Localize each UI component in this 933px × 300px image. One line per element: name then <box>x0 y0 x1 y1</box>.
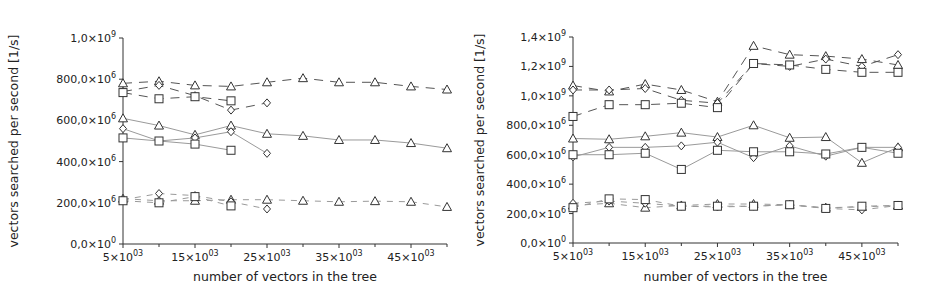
axes: 0,0×100200,0×106400,0×106600,0×106800,0×… <box>56 30 447 264</box>
square-marker-icon <box>858 202 866 210</box>
triangle-marker-icon <box>749 41 758 49</box>
square-marker-icon <box>713 104 721 112</box>
square-marker-icon <box>894 149 902 157</box>
series-solid-triangle-mid <box>119 114 452 152</box>
y-tick-label: 1,0×109 <box>520 88 566 103</box>
triangle-marker-icon <box>407 82 416 90</box>
square-marker-icon <box>191 193 199 201</box>
square-marker-icon <box>641 196 649 204</box>
diamond-marker-icon <box>264 205 271 213</box>
diamond-marker-icon <box>264 149 271 157</box>
triangle-marker-icon <box>443 202 452 210</box>
square-marker-icon <box>191 93 199 101</box>
square-marker-icon <box>786 201 794 209</box>
diamond-marker-icon <box>228 106 235 114</box>
y-tick-label: 0,0×100 <box>520 235 566 250</box>
triangle-marker-icon <box>299 74 308 82</box>
y-tick-label: 600,0×106 <box>506 147 566 162</box>
x-tick-label: 25×1003 <box>694 248 741 263</box>
square-marker-icon <box>822 65 830 73</box>
series-line <box>573 125 898 163</box>
y-tick-label: 400,0×106 <box>56 154 116 169</box>
triangle-marker-icon <box>371 78 380 86</box>
square-marker-icon <box>750 202 758 210</box>
square-marker-icon <box>641 101 649 109</box>
triangle-marker-icon <box>857 158 866 166</box>
x-tick-label: 15×1003 <box>622 248 669 263</box>
series-line <box>123 78 447 89</box>
triangle-marker-icon <box>371 197 380 205</box>
x-tick-label: 15×1003 <box>171 249 218 264</box>
square-marker-icon <box>227 202 235 210</box>
square-marker-icon <box>894 68 902 76</box>
series-dashed-square-low <box>119 193 235 210</box>
x-tick-label: 45×1003 <box>838 248 885 263</box>
series-solid-square-mid <box>569 143 902 173</box>
square-marker-icon <box>750 148 758 156</box>
square-marker-icon <box>605 101 613 109</box>
square-marker-icon <box>677 202 685 210</box>
square-marker-icon <box>641 149 649 157</box>
y-tick-label: 600,0×106 <box>56 112 116 127</box>
square-marker-icon <box>858 68 866 76</box>
square-marker-icon <box>569 112 577 120</box>
x-axis-title: number of vectors in the tree <box>193 269 377 284</box>
y-tick-label: 800,0×106 <box>56 71 116 86</box>
square-marker-icon <box>822 204 830 212</box>
triangle-marker-icon <box>677 128 686 136</box>
series-line <box>123 93 231 101</box>
y-axis-title: vectors searched per second [1/s] <box>472 34 487 247</box>
square-marker-icon <box>227 97 235 105</box>
diamond-marker-icon <box>895 51 902 59</box>
triangle-marker-icon <box>407 197 416 205</box>
series-line <box>573 201 898 210</box>
diamond-marker-icon <box>120 125 127 133</box>
x-tick-label: 35×1003 <box>766 248 813 263</box>
series-dashed-triangle-high <box>119 74 452 93</box>
triangle-marker-icon <box>821 133 830 141</box>
square-marker-icon <box>119 197 127 205</box>
square-marker-icon <box>569 151 577 159</box>
triangle-marker-icon <box>749 121 758 129</box>
square-marker-icon <box>155 95 163 103</box>
y-tick-label: 0,0×100 <box>70 236 116 251</box>
series-solid-diamond-mid <box>570 138 902 161</box>
square-marker-icon <box>191 140 199 148</box>
y-tick-label: 800,0×106 <box>506 117 566 132</box>
x-tick-label: 5×1003 <box>103 249 143 264</box>
chart-right: 0,0×100200,0×106400,0×106600,0×106800,0×… <box>466 0 933 300</box>
y-tick-label: 1,0×109 <box>70 30 116 45</box>
square-marker-icon <box>713 202 721 210</box>
series-dashed-diamond-low <box>570 197 902 214</box>
series-line <box>573 199 898 209</box>
square-marker-icon <box>786 61 794 69</box>
figure: 0,0×100200,0×106400,0×106600,0×106800,0×… <box>0 0 933 300</box>
series-line <box>573 55 898 104</box>
x-tick-label: 35×1003 <box>315 249 362 264</box>
diamond-marker-icon <box>678 142 685 150</box>
square-marker-icon <box>858 143 866 151</box>
x-tick-label: 25×1003 <box>243 249 290 264</box>
series-dashed-triangle-high <box>569 41 903 105</box>
y-tick-label: 400,0×106 <box>506 176 566 191</box>
triangle-marker-icon <box>677 85 686 93</box>
series-dashed-diamond-high <box>570 51 902 108</box>
series-line <box>123 118 447 148</box>
square-marker-icon <box>227 146 235 154</box>
square-marker-icon <box>750 59 758 67</box>
diamond-marker-icon <box>264 99 271 107</box>
y-tick-label: 200,0×106 <box>506 206 566 221</box>
triangle-marker-icon <box>299 196 308 204</box>
x-tick-label: 45×1003 <box>387 249 434 264</box>
square-marker-icon <box>569 204 577 212</box>
series-solid-triangle-mid <box>569 121 903 167</box>
series-line <box>123 199 447 207</box>
square-marker-icon <box>786 148 794 156</box>
axes: 0,0×100200,0×106400,0×106600,0×106800,0×… <box>506 29 898 263</box>
series-line <box>573 63 898 116</box>
square-marker-icon <box>605 151 613 159</box>
square-marker-icon <box>822 150 830 158</box>
square-marker-icon <box>677 99 685 107</box>
series-line <box>573 46 898 102</box>
triangle-marker-icon <box>569 134 578 142</box>
